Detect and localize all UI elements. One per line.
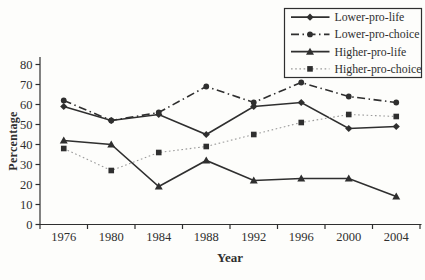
y-tick-label: 10 xyxy=(20,198,33,212)
square-marker xyxy=(61,146,67,152)
legend-label: Higher-pro-life xyxy=(335,45,407,59)
y-tick-label: 20 xyxy=(20,178,33,192)
x-tick-label: 1996 xyxy=(289,230,314,244)
circle-marker xyxy=(251,100,257,106)
x-tick-label: 1984 xyxy=(146,230,172,244)
y-tick-label: 0 xyxy=(26,218,32,232)
circle-marker xyxy=(203,84,209,90)
circle-marker xyxy=(346,94,352,100)
square-marker xyxy=(307,66,313,72)
y-tick-label: 70 xyxy=(20,78,33,92)
y-tick-label: 60 xyxy=(20,98,33,112)
y-axis-title: Percentage xyxy=(6,111,21,170)
square-marker xyxy=(346,112,352,118)
square-marker xyxy=(203,144,209,150)
y-tick-label: 40 xyxy=(20,138,33,152)
x-tick-label: 1992 xyxy=(241,230,266,244)
circle-marker xyxy=(307,31,313,37)
square-marker xyxy=(108,168,114,174)
circle-marker xyxy=(61,98,67,104)
circle-marker xyxy=(298,80,304,86)
legend-label: Lower-pro-life xyxy=(335,10,405,24)
circle-marker xyxy=(156,110,162,116)
circle-marker xyxy=(393,100,399,106)
y-tick-label: 50 xyxy=(20,118,33,132)
y-tick-label: 80 xyxy=(20,58,33,72)
diamond-marker xyxy=(60,103,67,110)
square-marker xyxy=(393,114,399,120)
x-tick-label: 1980 xyxy=(99,230,124,244)
legend: Lower-pro-lifeLower-pro-choiceHigher-pro… xyxy=(285,9,422,78)
legend-label: Lower-pro-choice xyxy=(335,27,420,41)
chart-canvas: 0102030405060708019761980198419881992199… xyxy=(0,0,425,280)
series-line-higher-pro-choice xyxy=(64,115,397,171)
square-marker xyxy=(156,150,162,156)
legend-label: Higher-pro-choice xyxy=(335,62,422,76)
abortion-attitudes-line-chart: 0102030405060708019761980198419881992199… xyxy=(0,0,425,280)
square-marker xyxy=(251,132,257,138)
triangle-marker xyxy=(202,157,210,164)
circle-marker xyxy=(108,118,114,124)
x-axis-title: Year xyxy=(40,250,420,266)
square-marker xyxy=(298,120,304,126)
x-tick-label: 1988 xyxy=(194,230,219,244)
diamond-marker xyxy=(203,131,210,138)
diamond-marker xyxy=(298,99,305,106)
diamond-marker xyxy=(345,125,352,132)
x-tick-label: 2000 xyxy=(336,230,361,244)
x-tick-label: 1976 xyxy=(51,230,76,244)
x-tick-label: 2004 xyxy=(384,230,410,244)
diamond-marker xyxy=(393,123,400,130)
y-tick-label: 30 xyxy=(20,158,33,172)
